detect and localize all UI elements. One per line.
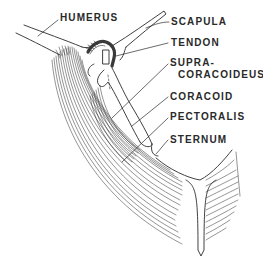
label-coracoid: CORACOID [170, 92, 233, 102]
leader-tendon [116, 43, 168, 56]
label-coracoideus: CORACOIDEUS [178, 70, 263, 80]
label-humerus: HUMERUS [60, 13, 118, 23]
label-tendon: TENDON [171, 38, 220, 48]
sternal-fibers [206, 152, 240, 240]
leader-sternum [156, 140, 168, 154]
scapula-bone [112, 11, 166, 60]
bird-shoulder-diagram [0, 0, 263, 260]
pectoralis-muscle [52, 46, 182, 244]
sternum-bone [151, 144, 232, 256]
label-supra: SUPRA- [170, 58, 215, 68]
leader-coracoid [132, 97, 168, 126]
label-scapula: SCAPULA [171, 17, 227, 27]
label-sternum: STERNUM [170, 135, 227, 145]
tendon [86, 41, 115, 66]
label-pectoralis: PECTORALIS [170, 112, 245, 122]
leader-supracoracoideus [112, 64, 168, 118]
humerus-bone [16, 25, 114, 55]
